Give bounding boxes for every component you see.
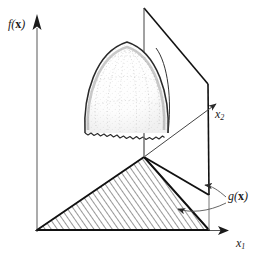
y-axis-label-close: ) [21,17,25,31]
constraint-label-close: ) [244,189,248,203]
y-axis-arrowhead [33,14,42,30]
x-axis-label-sub: 1 [241,242,245,251]
constraint-label: g(x) [228,189,248,204]
x2-axis-label-sub: 2 [220,113,224,122]
figure-canvas: f(x) x1 x2 g(x) [0,0,267,256]
diagram-svg [0,0,267,256]
constraint-label-g: g( [228,189,238,203]
y-axis-label: f(x) [8,17,25,32]
x-axis-label: x1 [236,236,245,251]
cutting-plane-right-edge [208,84,209,195]
x2-axis-label: x2 [215,107,224,122]
